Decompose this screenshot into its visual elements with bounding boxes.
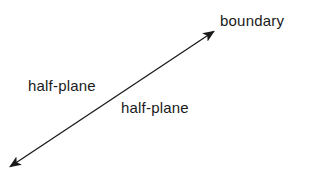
boundary-label: boundary bbox=[220, 13, 284, 28]
half-plane-diagram: boundary half-plane half-plane bbox=[0, 0, 314, 175]
half-plane-label-upper-left: half-plane bbox=[28, 78, 96, 93]
half-plane-label-lower-right: half-plane bbox=[121, 100, 189, 115]
